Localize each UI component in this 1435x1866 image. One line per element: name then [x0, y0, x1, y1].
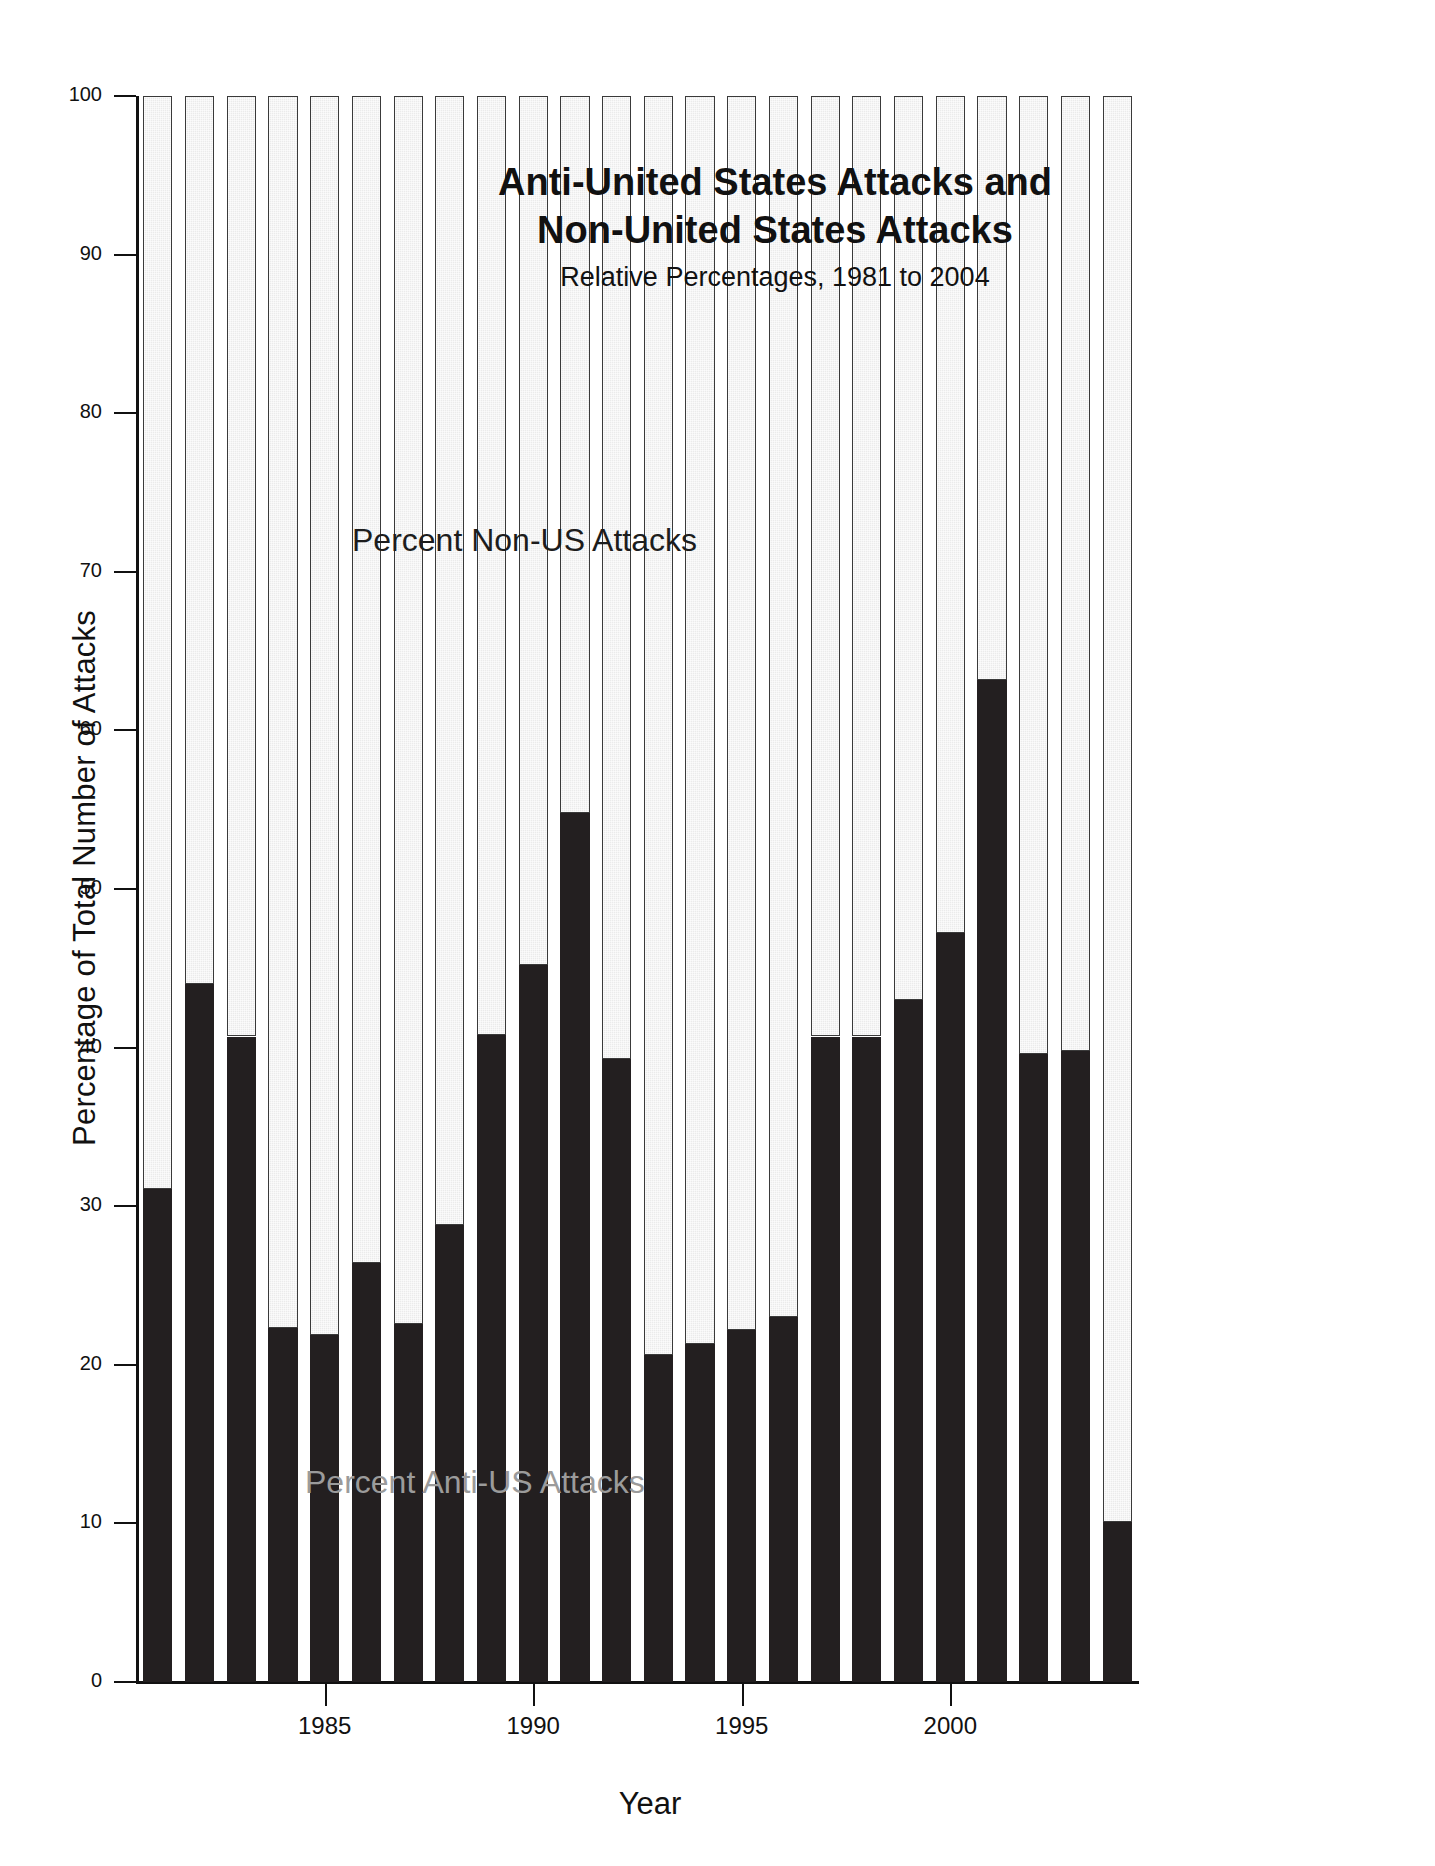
y-axis-tick-label: 70 [22, 559, 102, 582]
y-axis-tick-label: 50 [22, 876, 102, 899]
bar-segment-anti-us[interactable] [435, 1225, 464, 1682]
bar-segment-anti-us[interactable] [852, 1037, 881, 1683]
bar-group[interactable] [811, 96, 840, 1682]
y-axis-tick-label: 0 [22, 1669, 102, 1692]
bar-segment-anti-us[interactable] [268, 1328, 297, 1682]
bar-segment-anti-us[interactable] [143, 1189, 172, 1682]
bar-segment-non-us[interactable] [852, 96, 881, 1036]
bar-segment-anti-us[interactable] [685, 1344, 714, 1682]
bar-segment-anti-us[interactable] [185, 984, 214, 1682]
bar-segment-anti-us[interactable] [727, 1330, 756, 1682]
bar-group[interactable] [769, 96, 798, 1682]
series-label-non-us-attacks: Percent Non-US Attacks [352, 522, 697, 559]
bar-segment-non-us[interactable] [685, 96, 714, 1344]
bar-group[interactable] [435, 96, 464, 1682]
y-axis-tick-label: 90 [22, 242, 102, 265]
bar-group[interactable] [727, 96, 756, 1682]
bar-group[interactable] [143, 96, 172, 1682]
y-axis-tick [114, 1205, 136, 1207]
x-axis-tick-label: 1985 [265, 1712, 385, 1740]
x-axis-tick [742, 1684, 744, 1706]
bar-group[interactable] [977, 96, 1006, 1682]
bar-group[interactable] [310, 96, 339, 1682]
y-axis-tick-label: 40 [22, 1035, 102, 1058]
bar-segment-anti-us[interactable] [936, 933, 965, 1682]
bar-group[interactable] [477, 96, 506, 1682]
y-axis-tick [114, 571, 136, 573]
y-axis-tick [114, 729, 136, 731]
x-axis-tick [533, 1684, 535, 1706]
bar-segment-non-us[interactable] [1103, 96, 1132, 1522]
y-axis-tick-label: 60 [22, 717, 102, 740]
bar-group[interactable] [852, 96, 881, 1682]
y-axis-tick [114, 1681, 136, 1683]
bar-segment-anti-us[interactable] [227, 1037, 256, 1683]
x-axis-tick-label: 1995 [682, 1712, 802, 1740]
bar-segment-non-us[interactable] [394, 96, 423, 1324]
bar-segment-anti-us[interactable] [394, 1324, 423, 1682]
bar-group[interactable] [560, 96, 589, 1682]
bar-segment-non-us[interactable] [268, 96, 297, 1328]
bar-group[interactable] [644, 96, 673, 1682]
y-axis-tick [114, 1364, 136, 1366]
y-axis-tick [114, 95, 136, 97]
bar-segment-anti-us[interactable] [894, 1000, 923, 1682]
bar-segment-anti-us[interactable] [519, 965, 548, 1682]
bar-segment-anti-us[interactable] [560, 813, 589, 1682]
bar-segment-anti-us[interactable] [1061, 1051, 1090, 1682]
bar-segment-non-us[interactable] [602, 96, 631, 1059]
bar-segment-non-us[interactable] [894, 96, 923, 1000]
bar-segment-non-us[interactable] [352, 96, 381, 1263]
bar-segment-non-us[interactable] [310, 96, 339, 1335]
y-axis-tick [114, 254, 136, 256]
x-axis-tick [950, 1684, 952, 1706]
bar-segment-non-us[interactable] [936, 96, 965, 933]
x-axis-tick [325, 1684, 327, 1706]
bar-segment-non-us[interactable] [727, 96, 756, 1330]
bar-segment-non-us[interactable] [227, 96, 256, 1036]
bar-segment-non-us[interactable] [644, 96, 673, 1355]
chart-figure: Percentage of Total Number of Attacks 01… [0, 0, 1435, 1866]
bar-group[interactable] [394, 96, 423, 1682]
y-axis-tick [114, 1522, 136, 1524]
plot-area [137, 96, 1138, 1682]
bar-group[interactable] [352, 96, 381, 1682]
bar-group[interactable] [185, 96, 214, 1682]
bar-group[interactable] [268, 96, 297, 1682]
bar-group[interactable] [936, 96, 965, 1682]
bar-segment-non-us[interactable] [143, 96, 172, 1189]
y-axis-tick [114, 888, 136, 890]
bar-group[interactable] [227, 96, 256, 1682]
x-axis-tick-label: 1990 [473, 1712, 593, 1740]
bar-segment-non-us[interactable] [1061, 96, 1090, 1051]
y-axis-tick-label: 30 [22, 1193, 102, 1216]
bar-group[interactable] [1061, 96, 1090, 1682]
bar-segment-anti-us[interactable] [769, 1317, 798, 1682]
bar-segment-anti-us[interactable] [811, 1037, 840, 1683]
bar-group[interactable] [685, 96, 714, 1682]
y-axis-tick [114, 1047, 136, 1049]
bar-group[interactable] [894, 96, 923, 1682]
x-axis-title: Year [0, 1786, 1300, 1822]
bar-segment-anti-us[interactable] [644, 1355, 673, 1682]
bar-segment-non-us[interactable] [1019, 96, 1048, 1054]
bar-group[interactable] [1019, 96, 1048, 1682]
bar-group[interactable] [1103, 96, 1132, 1682]
bar-group[interactable] [519, 96, 548, 1682]
bar-segment-non-us[interactable] [185, 96, 214, 984]
bar-segment-non-us[interactable] [477, 96, 506, 1035]
bar-segment-anti-us[interactable] [310, 1335, 339, 1682]
bar-segment-non-us[interactable] [977, 96, 1006, 680]
bar-segment-non-us[interactable] [560, 96, 589, 813]
bar-segment-non-us[interactable] [435, 96, 464, 1225]
y-axis-tick [114, 412, 136, 414]
bar-segment-anti-us[interactable] [977, 680, 1006, 1682]
y-axis-tick-label: 20 [22, 1352, 102, 1375]
bar-group[interactable] [602, 96, 631, 1682]
bar-segment-anti-us[interactable] [1103, 1522, 1132, 1682]
bar-segment-anti-us[interactable] [477, 1035, 506, 1682]
bar-segment-anti-us[interactable] [602, 1059, 631, 1682]
bar-segment-non-us[interactable] [811, 96, 840, 1036]
bar-segment-non-us[interactable] [769, 96, 798, 1317]
bar-segment-anti-us[interactable] [1019, 1054, 1048, 1682]
